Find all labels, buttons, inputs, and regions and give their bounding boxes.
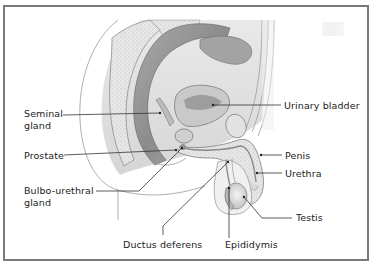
label-epididymis: Epididymis (225, 239, 278, 251)
prostate (175, 129, 193, 143)
label-seminal-gland-line2: gland (24, 120, 51, 132)
label-urethra: Urethra (285, 168, 322, 180)
label-bulbo-urethral-line2: gland (24, 197, 51, 209)
anatomy-illustration (0, 0, 374, 266)
label-penis: Penis (285, 150, 310, 162)
label-bulbo-urethral-line1: Bulbo-urethral (24, 185, 94, 197)
label-ductus-deferens: Ductus deferens (123, 239, 202, 251)
label-prostate: Prostate (24, 150, 64, 162)
label-urinary-bladder: Urinary bladder (284, 100, 360, 112)
label-testis: Testis (296, 212, 323, 224)
label-seminal-gland-line1: Seminal (24, 108, 63, 120)
